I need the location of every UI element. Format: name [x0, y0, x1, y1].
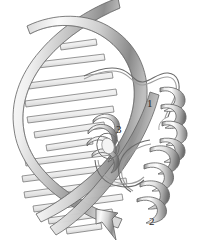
helix-3-label: 3 [116, 124, 122, 135]
dna-double-helix [13, 0, 159, 240]
alpha-helix-2 [137, 146, 180, 223]
helix-2-label: 2 [149, 216, 155, 227]
molecular-illustration: 1 3 2 [0, 0, 199, 247]
helix-1-label: 1 [147, 98, 153, 109]
structure-canvas [0, 0, 199, 247]
